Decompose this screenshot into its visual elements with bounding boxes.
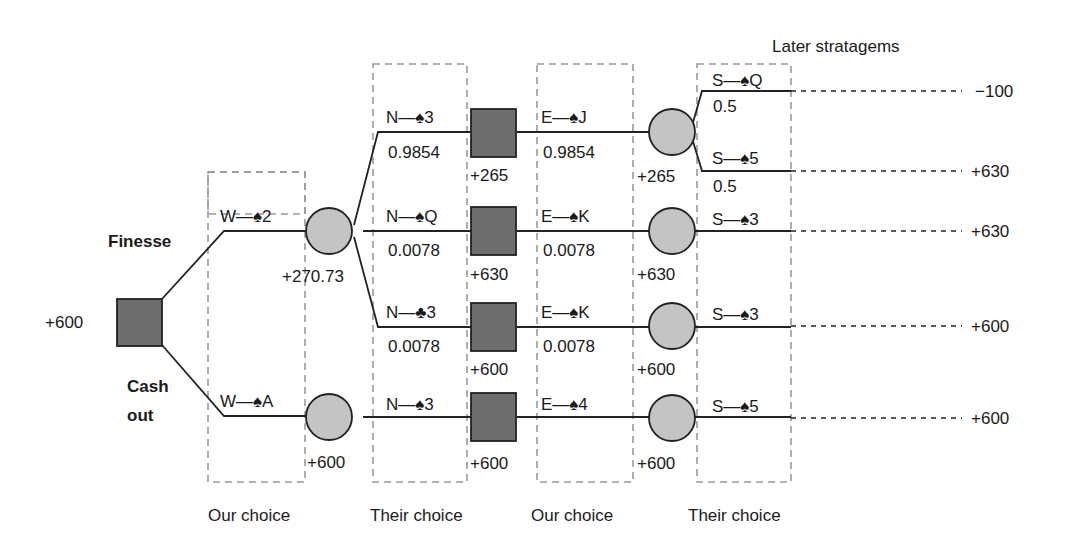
move-s-spade3-2: S—♠3 — [712, 305, 759, 324]
move-s-spade5-2: S—♠5 — [712, 397, 759, 416]
chance-node-cash — [306, 394, 352, 440]
labels: Later stratagems +600 Finesse Cash out W… — [45, 37, 1013, 525]
prob-n-club3: 0.0078 — [388, 337, 440, 356]
prob-e-spadeK-1: 0.0078 — [543, 241, 595, 260]
move-n-spade3: N—♠3 — [386, 108, 434, 127]
move-s-spadeQ: S—♠Q — [712, 71, 763, 90]
outcome-3: +630 — [971, 222, 1009, 241]
chance-node-d — [649, 395, 695, 441]
value-ci-600-a: +600 — [637, 360, 675, 379]
chance-node-a — [649, 109, 695, 155]
move-e-spadeK-1: E—♠K — [541, 207, 590, 226]
prob-e-spadeK-2: 0.0078 — [543, 337, 595, 356]
move-w-spade2: W—♠2 — [220, 207, 272, 226]
caption-our-choice-2: Our choice — [531, 506, 613, 525]
value-sq-600-b: +600 — [470, 454, 508, 473]
caption-their-choice-2: Their choice — [688, 506, 781, 525]
decision-node-b — [471, 207, 516, 255]
move-s-spade3-1: S—♠3 — [712, 210, 759, 229]
decision-node-c — [471, 303, 516, 351]
caption-their-choice-1: Their choice — [370, 506, 463, 525]
move-e-spadeJ: E—♠J — [541, 108, 587, 127]
edge-s-spadeQ — [692, 91, 791, 126]
value-cash-600: +600 — [307, 453, 345, 472]
chance-node-b — [649, 208, 695, 254]
later-dashed-lines — [791, 91, 962, 418]
move-w-spadeA: W—♠A — [220, 392, 274, 411]
prob-n-spade3: 0.9854 — [388, 143, 440, 162]
outcome-2: +630 — [971, 162, 1009, 181]
prob-s-spadeQ: 0.5 — [713, 97, 737, 116]
outcome-5: +600 — [971, 409, 1009, 428]
move-s-spade5-1: S—♠5 — [712, 149, 759, 168]
later-stratagems-title: Later stratagems — [772, 37, 900, 56]
decision-node-root — [117, 299, 162, 346]
move-e-spadeK-2: E—♠K — [541, 303, 590, 322]
value-sq-600-a: +600 — [470, 360, 508, 379]
edge-finesse — [162, 231, 317, 299]
game-tree-diagram: Later stratagems +600 Finesse Cash out W… — [0, 0, 1068, 558]
finesse-label: Finesse — [108, 232, 171, 251]
frame-their-choice-col4 — [697, 64, 791, 482]
move-n-spade3-cash: N—♠3 — [386, 395, 434, 414]
value-sq-265: +265 — [470, 166, 508, 185]
cash-out-label-line2: out — [127, 406, 154, 425]
outcome-1: −100 — [975, 82, 1013, 101]
chance-node-finesse — [306, 208, 352, 254]
move-n-spadeQ: N—♠Q — [386, 207, 438, 226]
root-value: +600 — [45, 313, 83, 332]
prob-e-spadeJ: 0.9854 — [543, 143, 595, 162]
value-ci-630: +630 — [637, 265, 675, 284]
value-sq-630: +630 — [470, 265, 508, 284]
value-270-73: +270.73 — [282, 267, 344, 286]
prob-s-spade5-1: 0.5 — [713, 177, 737, 196]
value-ci-265: +265 — [637, 167, 675, 186]
chance-node-c — [649, 303, 695, 349]
value-ci-600-b: +600 — [637, 454, 675, 473]
decision-node-a — [471, 109, 516, 157]
prob-n-spadeQ: 0.0078 — [388, 241, 440, 260]
move-n-club3: N—♣3 — [386, 303, 436, 322]
outcome-4: +600 — [971, 317, 1009, 336]
cash-out-label-line1: Cash — [127, 377, 169, 396]
move-e-spade4: E—♠4 — [541, 395, 588, 414]
decision-node-d — [471, 393, 516, 441]
caption-our-choice-1: Our choice — [208, 506, 290, 525]
